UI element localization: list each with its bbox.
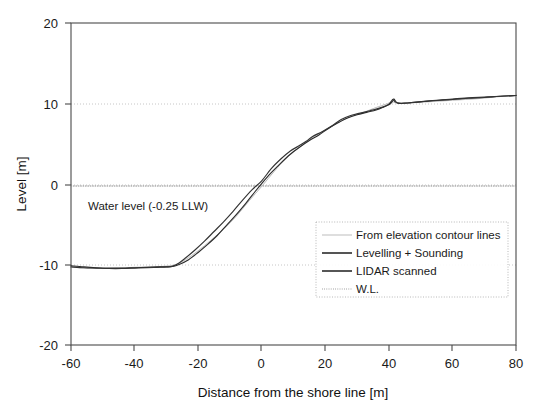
xtick-label-minus20: -20 (189, 356, 208, 371)
legend-label-levelling: Levelling + Sounding (356, 247, 463, 259)
xtick-label-20: 20 (318, 356, 332, 371)
legend-label-lidar: LIDAR scanned (356, 265, 437, 277)
ytick-label-minus20: -20 (39, 338, 58, 353)
xtick-label-80: 80 (509, 356, 523, 371)
x-axis-title: Distance from the shore line [m] (198, 385, 389, 400)
ytick-label-minus10: -10 (39, 258, 58, 273)
xtick-label-0: 0 (257, 356, 264, 371)
ytick-label-0: 0 (51, 178, 58, 193)
y-axis-ticks (65, 23, 71, 345)
xtick-label-40: 40 (382, 356, 396, 371)
y-axis-title: Level [m] (14, 157, 29, 212)
water-level-annotation: Water level (-0.25 LLW) (88, 200, 208, 212)
x-axis-ticks (71, 345, 516, 351)
chart-figure: 20 10 0 -10 -20 -60 -40 -20 0 20 40 60 8 (0, 0, 551, 417)
chart-legend: From elevation contour lines Levelling +… (316, 222, 508, 297)
xtick-label-minus40: -40 (125, 356, 144, 371)
legend-label-wl: W.L. (356, 283, 379, 295)
xtick-label-60: 60 (445, 356, 459, 371)
ytick-label-20: 20 (44, 16, 58, 31)
y-axis-labels: 20 10 0 -10 -20 (39, 16, 58, 353)
x-axis-labels: -60 -40 -20 0 20 40 60 80 (62, 356, 524, 371)
ytick-label-10: 10 (44, 97, 58, 112)
xtick-label-minus60: -60 (62, 356, 81, 371)
legend-label-contour: From elevation contour lines (356, 229, 501, 241)
chart-canvas: 20 10 0 -10 -20 -60 -40 -20 0 20 40 60 8 (0, 0, 551, 417)
